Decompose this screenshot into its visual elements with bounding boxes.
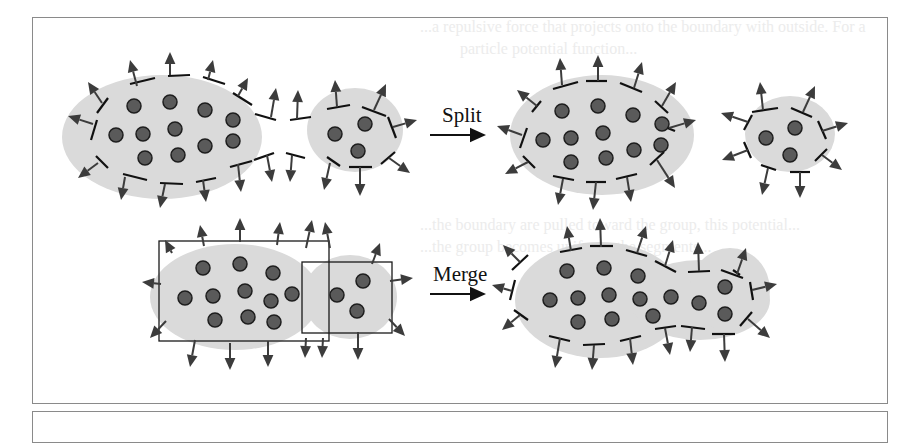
particle: [599, 151, 613, 165]
group-region: [303, 255, 397, 339]
boundary-segment: [160, 183, 183, 184]
particle: [208, 313, 222, 327]
force-arrow-icon: [322, 222, 333, 248]
particle: [664, 290, 678, 304]
boundary-segment: [688, 271, 710, 272]
particle: [631, 269, 645, 283]
merge-arrow-icon: [430, 287, 486, 301]
split-arrow-icon: [430, 128, 486, 142]
particle: [358, 117, 372, 131]
force-arrow-icon: [165, 240, 175, 253]
particle: [543, 293, 557, 307]
particle: [127, 99, 141, 113]
merge-label: Merge: [433, 262, 487, 286]
force-arrow-icon: [759, 168, 770, 195]
force-arrow-icon: [505, 162, 528, 174]
particle: [560, 264, 574, 278]
force-arrow-icon: [237, 78, 248, 96]
particle: [198, 139, 212, 153]
particle: [633, 292, 647, 306]
force-arrow-icon: [286, 155, 297, 182]
boundary-segment: [255, 114, 276, 120]
particle: [571, 291, 585, 305]
particle: [356, 274, 370, 288]
particle: [196, 261, 210, 275]
force-arrow-icon: [265, 155, 276, 182]
particle: [109, 128, 123, 142]
group-region: [307, 88, 403, 172]
particle: [264, 294, 278, 308]
force-arrow-icon: [822, 155, 842, 170]
particle: [692, 296, 706, 310]
particle: [328, 127, 342, 141]
particle: [602, 288, 616, 302]
bleed-text-line: ...the boundary are pulled toward the gr…: [420, 216, 800, 234]
boundary-segment: [583, 344, 605, 345]
particle: [136, 127, 150, 141]
particle: [238, 284, 252, 298]
particle: [168, 122, 182, 136]
particle: [267, 315, 281, 329]
boundary-segment: [290, 117, 311, 120]
particle: [564, 131, 578, 145]
bleed-text-line: particle potential function...: [460, 40, 637, 58]
particle: [627, 143, 641, 157]
particle: [178, 291, 192, 305]
particle: [718, 280, 732, 294]
force-arrow-icon: [722, 150, 748, 161]
particle: [206, 289, 220, 303]
force-arrow-icon: [292, 90, 303, 119]
force-arrow-icon: [492, 283, 512, 293]
particle: [655, 117, 669, 131]
force-arrow-icon: [235, 218, 246, 242]
split-label: Split: [442, 103, 482, 127]
force-arrow-icon: [719, 334, 730, 362]
particle: [591, 99, 605, 113]
particle: [350, 304, 364, 318]
force-arrow-icon: [150, 321, 166, 338]
particle: [788, 121, 802, 135]
force-arrow-icon: [371, 243, 381, 264]
particle: [226, 134, 240, 148]
force-arrow-icon: [748, 319, 770, 338]
particle: [646, 309, 660, 323]
particle: [626, 108, 640, 122]
particle: [571, 315, 585, 329]
particle: [536, 133, 550, 147]
bleed-text-line: ...a repulsive force that projects onto …: [420, 18, 866, 36]
particle: [138, 151, 152, 165]
particle: [163, 95, 177, 109]
force-arrow-icon: [269, 88, 280, 117]
particle: [597, 261, 611, 275]
particle: [285, 287, 299, 301]
force-arrow-icon: [304, 220, 315, 248]
force-arrow-icon: [795, 172, 806, 198]
particle: [198, 103, 212, 117]
force-arrow-icon: [721, 112, 748, 122]
particle: [605, 312, 619, 326]
particle: [330, 288, 344, 302]
force-arrow-icon: [165, 52, 176, 75]
particle: [226, 113, 240, 127]
particle: [596, 126, 610, 140]
force-arrow-icon: [197, 225, 208, 246]
particle: [759, 131, 773, 145]
particle: [266, 266, 280, 280]
force-arrow-icon: [389, 158, 410, 173]
particle: [654, 138, 668, 152]
boundary-segment: [168, 75, 190, 76]
particle: [564, 155, 578, 169]
particle: [171, 148, 185, 162]
particle: [783, 148, 797, 162]
particle: [233, 257, 247, 271]
force-arrow-icon: [502, 315, 520, 330]
force-arrow-icon: [321, 163, 332, 190]
particle: [718, 307, 732, 321]
particle: [555, 104, 569, 118]
particle: [351, 144, 365, 158]
particle: [241, 310, 255, 324]
boundary-segment: [286, 153, 305, 158]
